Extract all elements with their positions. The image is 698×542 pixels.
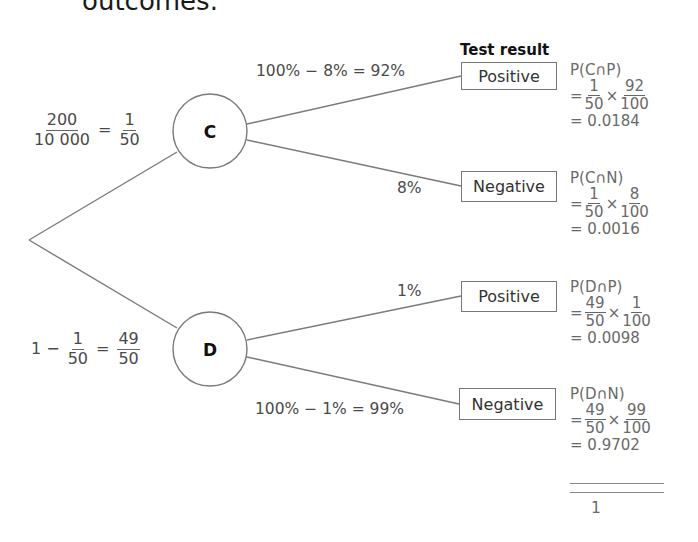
fraction: 4950 (585, 296, 606, 331)
fraction: 49 50 (117, 331, 139, 368)
fraction: 99100 (622, 403, 651, 438)
prob-d-label: 1 − 1 50 = 49 50 (31, 331, 142, 368)
fraction: 8100 (620, 187, 649, 222)
d-to-negative-branch (247, 357, 459, 404)
outcome-box-c-positive: Positive (461, 62, 557, 90)
prob-c-label: 200 10 000 = 1 50 (32, 112, 142, 149)
outcome-box-d-positive: Positive (461, 281, 557, 312)
calc-c-negative: P(C∩N) = 150 × 8100 = 0.0016 (570, 170, 651, 238)
node-d-label: D (195, 340, 225, 360)
root-to-d-branch (29, 240, 177, 328)
fraction: 150 (585, 79, 604, 114)
branch-label-c-negative: 8% (397, 181, 422, 197)
heading-fragment: outcomes. (82, 0, 218, 16)
branch-label-d-positive: 1% (397, 284, 422, 300)
c-to-positive-branch (247, 76, 461, 124)
fraction: 150 (585, 187, 604, 222)
total-rule-bottom (570, 492, 664, 493)
total-rule-top (570, 483, 664, 484)
branch-label-d-negative: 100% − 1% = 99% (255, 402, 404, 418)
calc-d-negative: P(D∩N) = 4950 × 99100 = 0.9702 (570, 386, 653, 454)
total-value: 1 (591, 501, 601, 517)
fraction: 1 50 (68, 331, 88, 368)
fraction: 92100 (620, 79, 649, 114)
test-result-title: Test result (460, 41, 549, 59)
fraction: 200 10 000 (34, 112, 90, 149)
calc-c-positive: P(C∩P) = 150 × 92100 = 0.0184 (570, 62, 651, 130)
outcome-box-d-negative: Negative (459, 388, 556, 420)
d-to-positive-branch (247, 296, 461, 340)
root-to-c-branch (29, 152, 177, 240)
calc-d-positive: P(D∩P) = 4950 × 1100 = 0.0098 (570, 279, 653, 347)
fraction: 4950 (585, 403, 606, 438)
c-to-negative-branch (247, 140, 461, 186)
fraction: 1100 (622, 296, 651, 331)
outcome-box-c-negative: Negative (461, 171, 557, 202)
node-c-label: C (195, 122, 225, 142)
fraction: 1 50 (119, 112, 139, 149)
branch-label-c-positive: 100% − 8% = 92% (256, 64, 405, 80)
